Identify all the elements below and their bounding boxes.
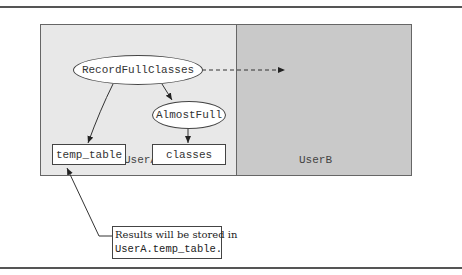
callout-line-2: UserA.temp_table. [115,242,219,256]
edge-record-to-temp [88,84,113,143]
callout-line-1: Results will be stored in [115,228,219,242]
node-temp-table: temp_table [52,144,126,165]
edge-record-to-almost [162,84,172,100]
node-almost-full: AlmostFull [152,101,226,129]
node-record-full-classes: RecordFullClasses [73,55,203,85]
node-classes: classes [152,144,226,165]
edge-callout-to-temp [67,168,112,236]
callout-note: Results will be stored in UserA.temp_tab… [112,226,222,259]
